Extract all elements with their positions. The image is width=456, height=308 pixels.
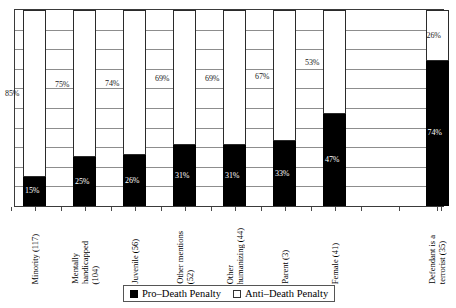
value-label-anti: 74% [105, 79, 119, 88]
value-label-pro: 31% [175, 171, 189, 180]
value-label-anti: 26% [427, 31, 441, 40]
legend-item-pro: Pro–Death Penalty [130, 288, 221, 299]
x-axis-label-line: Parent (3) [280, 250, 290, 284]
x-axis-label-line: terrorist (35) [437, 241, 447, 284]
x-tick [235, 207, 236, 211]
x-tick [437, 207, 438, 211]
x-tick [135, 207, 136, 211]
value-label-pro: 26% [125, 176, 139, 185]
x-tick [111, 207, 112, 211]
value-label-pro: 31% [225, 171, 239, 180]
x-tick [311, 207, 312, 211]
stacked-bar[interactable] [23, 10, 46, 206]
x-axis-label: Other mentions(52) [162, 212, 208, 284]
value-label-pro: 47% [325, 155, 339, 164]
x-tick [211, 207, 212, 211]
bar-segment-anti[interactable] [273, 10, 296, 141]
x-tick [85, 207, 86, 211]
legend-label-anti: Anti–Death Penalty [245, 288, 328, 299]
x-axis-label: Mentallyhandicapped(104) [62, 212, 108, 284]
x-axis-label: Female (41) [312, 212, 358, 284]
value-label-pro: 33% [275, 169, 289, 178]
chart-legend: Pro–Death Penalty Anti–Death Penalty [123, 285, 335, 302]
bar-segment-anti[interactable] [323, 10, 346, 114]
x-axis-label: Minority (117) [12, 212, 58, 284]
x-axis-category-labels: Minority (117)Mentallyhandicapped(104)Ju… [14, 212, 444, 284]
x-axis-label-line: (104) [90, 266, 100, 284]
x-tick [61, 207, 62, 211]
value-label-anti: 75% [55, 80, 69, 89]
x-axis-label-line: handicapped [80, 241, 90, 284]
x-axis-label-line: (52) [185, 270, 195, 284]
x-tick [285, 207, 286, 211]
bar-segment-anti[interactable] [73, 10, 96, 157]
x-tick [335, 207, 336, 211]
bar-segment-anti[interactable] [23, 10, 46, 177]
bar-segment-anti[interactable] [173, 10, 196, 145]
x-axis-label: Defendant is aterrorist (35) [414, 212, 456, 284]
x-tick [441, 207, 442, 211]
value-label-pro: 15% [25, 186, 39, 195]
white-square-icon [233, 290, 241, 298]
x-axis-label: Parent (3) [262, 212, 308, 284]
x-axis-label-line: Other mentions [175, 231, 185, 284]
x-axis-label-line: Female (41) [330, 243, 340, 284]
x-axis-label-line: Juvenile (56) [130, 239, 140, 284]
value-label-anti: 69% [205, 74, 219, 83]
x-tick [361, 207, 362, 211]
value-label-pro: 74% [428, 128, 442, 137]
bar-segment-anti[interactable] [223, 10, 246, 145]
value-label-pro: 25% [75, 177, 89, 186]
x-tick [399, 207, 400, 211]
bar-segment-anti[interactable] [123, 10, 146, 155]
x-axis-label-line: Other [225, 265, 235, 284]
legend-item-anti: Anti–Death Penalty [233, 288, 328, 299]
value-label-anti: 85% [5, 89, 19, 98]
value-label-anti: 69% [155, 74, 169, 83]
chart-root: 85%15%75%25%74%26%69%31%69%31%67%33%53%4… [0, 0, 456, 308]
x-axis-label-line: Defendant is a [427, 235, 437, 284]
x-tick [161, 207, 162, 211]
x-tick [11, 207, 12, 211]
value-label-anti: 53% [305, 58, 319, 67]
stacked-bar[interactable] [323, 10, 346, 206]
x-axis-label-line: humanizing (44) [235, 228, 245, 284]
x-axis-label-line: Minority (117) [30, 234, 40, 284]
black-square-icon [130, 290, 138, 298]
x-tick [185, 207, 186, 211]
x-tick [35, 207, 36, 211]
x-axis-label: Otherhumanizing (44) [212, 212, 258, 284]
legend-label-pro: Pro–Death Penalty [142, 288, 221, 299]
x-axis-label: Juvenile (56) [112, 212, 158, 284]
plot-area: 85%15%75%25%74%26%69%31%69%31%67%33%53%4… [14, 9, 444, 207]
x-tick [261, 207, 262, 211]
x-axis-label-line: Mentally [70, 253, 80, 284]
value-label-anti: 67% [255, 72, 269, 81]
